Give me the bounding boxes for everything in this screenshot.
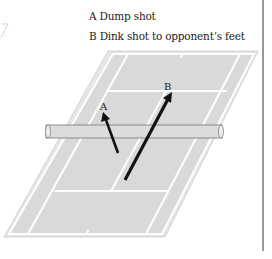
court-surface	[9, 54, 254, 234]
arrow-b-label: B	[164, 81, 171, 92]
court-diagram: A B	[0, 0, 272, 259]
net	[46, 125, 224, 138]
partial-figure-edge	[1, 24, 8, 38]
arrow-a-label: A	[99, 101, 108, 112]
